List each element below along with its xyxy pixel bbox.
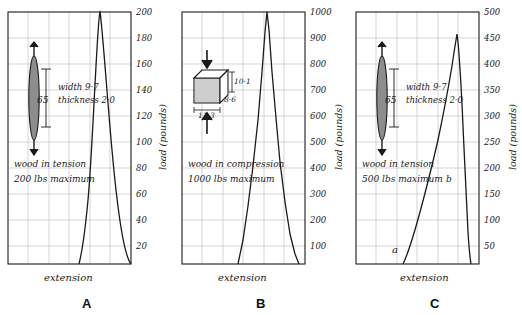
svg-text:700: 700 xyxy=(310,85,327,95)
minor-grid-b xyxy=(182,12,305,264)
svg-text:800: 800 xyxy=(310,59,327,69)
svg-text:350: 350 xyxy=(484,85,501,95)
curve-point-label-a-c: a xyxy=(392,244,398,255)
svg-text:140: 140 xyxy=(136,85,153,95)
svg-text:400: 400 xyxy=(483,59,501,69)
svg-text:160: 160 xyxy=(136,59,153,69)
svg-text:200: 200 xyxy=(135,7,153,17)
specimen-thickness-label-c: thickness 2·0 xyxy=(406,95,464,105)
svg-text:450: 450 xyxy=(483,33,501,43)
panel-a: 65 width 9·7 thickness 2·0 wood in tensi… xyxy=(0,0,174,315)
panel-letter-c: C xyxy=(348,296,522,311)
load-extension-curve-b xyxy=(238,12,299,264)
ytick-labels-b: 1000 900 800 700 600 500 400 300 200 100 xyxy=(309,7,332,251)
xlabel-c: extension xyxy=(400,272,449,283)
ylabel-c: load (pounds) xyxy=(507,104,518,170)
svg-text:500: 500 xyxy=(310,137,327,147)
svg-text:600: 600 xyxy=(310,111,327,121)
svg-text:250: 250 xyxy=(483,137,501,147)
specimen-width-label-c: width 9·7 xyxy=(406,82,447,92)
ylabel-b: load (pounds) xyxy=(333,104,344,170)
plot-frame-a xyxy=(8,12,131,264)
svg-text:500: 500 xyxy=(484,7,501,17)
svg-text:180: 180 xyxy=(136,33,153,43)
specimen-height-label-b: 10·1 xyxy=(234,77,251,86)
specimen-depth-label-b: 8·6 xyxy=(224,95,236,104)
xlabel-a: extension xyxy=(44,272,93,283)
load-extension-curve-a xyxy=(79,12,131,264)
panel-c-plot: 65 width 9·7 thickness 2·0 wood in tensi… xyxy=(348,0,522,290)
caption-line2-c: 500 lbs maximum xyxy=(362,174,443,184)
specimen-gauge-label-c: 65 xyxy=(385,95,397,105)
panel-c: 65 width 9·7 thickness 2·0 wood in tensi… xyxy=(348,0,522,315)
panel-b: 10·1 8·6 11·3 wood in compression 1000 l… xyxy=(174,0,348,315)
svg-text:50: 50 xyxy=(484,241,495,251)
ylabel-a: load (pounds) xyxy=(157,104,168,170)
svg-text:80: 80 xyxy=(136,163,147,173)
panel-b-plot: 10·1 8·6 11·3 wood in compression 1000 l… xyxy=(174,0,348,290)
xlabel-b: extension xyxy=(218,272,267,283)
svg-text:900: 900 xyxy=(310,33,327,43)
svg-text:100: 100 xyxy=(136,137,153,147)
caption-line2-b: 1000 lbs maximum xyxy=(188,174,275,184)
specimen-gauge-label-a: 65 xyxy=(37,95,49,105)
panel-a-plot: 65 width 9·7 thickness 2·0 wood in tensi… xyxy=(0,0,174,290)
plot-frame-b xyxy=(182,12,305,264)
svg-text:150: 150 xyxy=(484,189,501,199)
caption-line1-c: wood in tension xyxy=(362,159,434,169)
curve-point-label-b-c: b xyxy=(446,174,452,184)
load-extension-curve-c xyxy=(403,34,471,264)
caption-line1-a: wood in tension xyxy=(14,159,86,169)
svg-text:40: 40 xyxy=(135,215,147,225)
minor-grid-a xyxy=(8,12,131,264)
svg-text:300: 300 xyxy=(484,111,501,121)
load-extension-figure: 65 width 9·7 thickness 2·0 wood in tensi… xyxy=(0,0,522,315)
caption-line1-b: wood in compression xyxy=(188,159,285,169)
plot-frame-c xyxy=(356,12,479,264)
ytick-labels-c: 500 450 400 350 300 250 200 150 100 50 xyxy=(483,7,501,251)
svg-text:100: 100 xyxy=(484,215,501,225)
specimen-compression-block-b xyxy=(194,50,235,134)
panel-letter-a: A xyxy=(0,296,174,311)
svg-text:200: 200 xyxy=(309,215,327,225)
svg-text:100: 100 xyxy=(310,241,327,251)
minor-grid-c xyxy=(356,12,479,264)
ytick-labels-a: 200 180 160 140 120 100 80 60 40 20 xyxy=(135,7,153,251)
svg-text:300: 300 xyxy=(310,189,327,199)
specimen-width-label-b: 11·3 xyxy=(198,111,215,120)
panel-letter-b: B xyxy=(174,296,348,311)
caption-line2-a: 200 lbs maximum xyxy=(13,174,95,184)
svg-text:60: 60 xyxy=(136,189,147,199)
svg-text:400: 400 xyxy=(309,163,327,173)
svg-text:120: 120 xyxy=(136,111,153,121)
specimen-width-label-a: width 9·7 xyxy=(58,82,99,92)
svg-text:1000: 1000 xyxy=(310,7,332,17)
svg-text:20: 20 xyxy=(135,241,147,251)
svg-text:200: 200 xyxy=(483,163,501,173)
